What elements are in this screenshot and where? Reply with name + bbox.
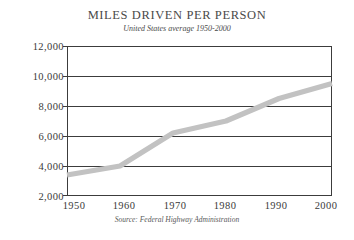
chart-subtitle: United States average 1950-2000 — [0, 24, 354, 33]
x-tick-label-1970: 1970 — [150, 200, 200, 211]
y-tick-label-8000: 8,000 — [4, 101, 64, 112]
chart-source-note: Source: Federal Highway Administration — [0, 215, 354, 224]
y-tick-mark-2000 — [63, 195, 68, 196]
y-tick-label-10000: 10,000 — [4, 71, 64, 82]
chart-page: MILES DRIVEN PER PERSON United States av… — [0, 0, 354, 240]
plot-area — [67, 46, 332, 196]
y-tick-mark-8000 — [63, 106, 68, 107]
y-tick-label-4000: 4,000 — [4, 161, 64, 172]
y-tick-mark-4000 — [63, 166, 68, 167]
x-tick-label-1960: 1960 — [99, 200, 149, 211]
y-tick-mark-12000 — [63, 46, 68, 47]
y-tick-mark-10000 — [63, 76, 68, 77]
gridline-6000 — [68, 136, 331, 137]
gridline-10000 — [68, 76, 331, 77]
y-tick-label-6000: 6,000 — [4, 131, 64, 142]
x-tick-label-2000: 2000 — [301, 200, 351, 211]
gridline-4000 — [68, 166, 331, 167]
x-tick-label-1950: 1950 — [49, 200, 99, 211]
y-tick-mark-6000 — [63, 136, 68, 137]
chart-title: MILES DRIVEN PER PERSON — [0, 8, 354, 23]
x-tick-label-1980: 1980 — [200, 200, 250, 211]
gridline-8000 — [68, 106, 331, 107]
x-tick-label-1990: 1990 — [251, 200, 301, 211]
y-tick-label-12000: 12,000 — [4, 41, 64, 52]
